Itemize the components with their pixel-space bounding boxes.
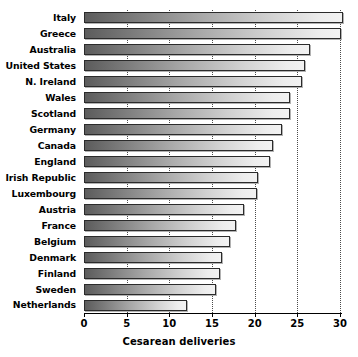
- bar: [84, 76, 302, 87]
- bar: [84, 188, 257, 199]
- bar-row: [84, 249, 358, 265]
- bar-row: [84, 233, 358, 249]
- category-label: Belgium: [0, 233, 80, 249]
- x-axis-tick-label: 15: [205, 319, 219, 329]
- category-label: Greece: [0, 26, 80, 42]
- bar-row: [84, 170, 358, 186]
- bar: [84, 28, 341, 39]
- x-axis-tick: [84, 313, 85, 317]
- bar: [84, 44, 310, 55]
- category-label: United States: [0, 58, 80, 74]
- category-label: Sweden: [0, 281, 80, 297]
- bar-row: [84, 122, 358, 138]
- x-axis-tick: [169, 313, 170, 317]
- category-label: Italy: [0, 10, 80, 26]
- x-axis-title: Cesarean deliveries: [0, 336, 358, 347]
- x-axis-tick-label: 20: [248, 319, 262, 329]
- category-label: Wales: [0, 90, 80, 106]
- x-axis-tick-label: 10: [162, 319, 176, 329]
- category-label: N. Ireland: [0, 74, 80, 90]
- bar: [84, 92, 290, 103]
- x-axis-tick: [212, 313, 213, 317]
- bar-row: [84, 106, 358, 122]
- category-label: France: [0, 217, 80, 233]
- category-label: Canada: [0, 138, 80, 154]
- x-axis-tick-label: 25: [290, 319, 304, 329]
- bar-row: [84, 138, 358, 154]
- bar: [84, 204, 244, 215]
- category-label: Netherlands: [0, 297, 80, 313]
- category-label: England: [0, 154, 80, 170]
- bar-series: [84, 10, 358, 313]
- bar-row: [84, 201, 358, 217]
- bar-row: [84, 265, 358, 281]
- x-axis-tick: [127, 313, 128, 317]
- plot-area: [84, 10, 358, 313]
- bar-row: [84, 74, 358, 90]
- category-label: Scotland: [0, 106, 80, 122]
- bar-row: [84, 90, 358, 106]
- bar-row: [84, 281, 358, 297]
- cesarean-deliveries-bar-chart: ItalyGreeceAustraliaUnited StatesN. Irel…: [0, 0, 358, 357]
- bar-row: [84, 58, 358, 74]
- bar: [84, 12, 343, 23]
- bar: [84, 140, 273, 151]
- x-axis-tick-label: 30: [333, 319, 347, 329]
- bar-row: [84, 10, 358, 26]
- bar: [84, 108, 290, 119]
- category-label: Australia: [0, 42, 80, 58]
- bar: [84, 172, 258, 183]
- bar-row: [84, 42, 358, 58]
- bar: [84, 220, 236, 231]
- bar: [84, 268, 220, 279]
- category-label: Germany: [0, 122, 80, 138]
- bar: [84, 124, 282, 135]
- x-axis-tick: [255, 313, 256, 317]
- bar-row: [84, 297, 358, 313]
- bar: [84, 156, 270, 167]
- x-axis-tick: [297, 313, 298, 317]
- bar-row: [84, 26, 358, 42]
- bar: [84, 300, 187, 311]
- category-label: Denmark: [0, 249, 80, 265]
- bar: [84, 252, 222, 263]
- x-axis-line: [84, 313, 342, 314]
- category-label: Irish Republic: [0, 170, 80, 186]
- x-axis-tick-label: 0: [81, 319, 88, 329]
- bar: [84, 236, 230, 247]
- x-axis-tick-label: 5: [123, 319, 130, 329]
- bar: [84, 284, 216, 295]
- category-label: Austria: [0, 201, 80, 217]
- bar-row: [84, 154, 358, 170]
- bar-row: [84, 217, 358, 233]
- category-label: Luxembourg: [0, 185, 80, 201]
- category-axis-labels: ItalyGreeceAustraliaUnited StatesN. Irel…: [0, 10, 80, 313]
- bar-row: [84, 185, 358, 201]
- category-label: Finland: [0, 265, 80, 281]
- bar: [84, 60, 305, 71]
- x-axis-tick: [340, 313, 341, 317]
